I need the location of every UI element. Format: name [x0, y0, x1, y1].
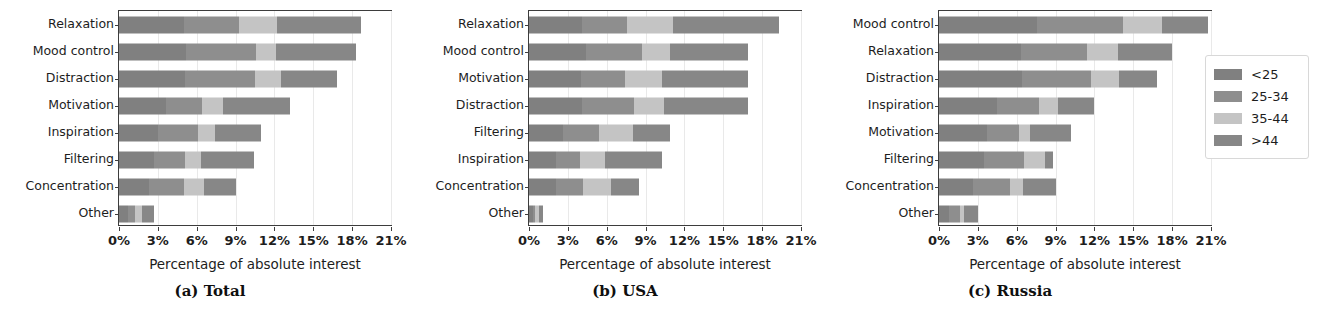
bar-segment-25	[529, 178, 556, 195]
gridline	[1172, 11, 1173, 225]
bar-segment-35-44	[255, 70, 281, 87]
bar-segment-44	[276, 43, 356, 60]
bar-segment-35-44	[634, 97, 664, 114]
legend-item[interactable]: >44	[1214, 129, 1300, 151]
bar-segment-25-34	[987, 124, 1019, 141]
x-tick-label: 15%	[298, 234, 329, 247]
stacked-bar	[529, 151, 662, 168]
y-tick-label: Concentration	[846, 179, 934, 192]
bar-segment-25	[529, 16, 582, 33]
bar-segment-25-34	[997, 97, 1038, 114]
bar-segment-25	[119, 70, 185, 87]
x-tick-mark	[723, 227, 724, 231]
bar-segment-35-44	[1019, 124, 1029, 141]
y-tick-label: Relaxation	[48, 17, 114, 30]
stacked-bar	[119, 70, 337, 87]
x-tick-label: 6%	[1006, 234, 1028, 247]
x-tick-mark	[568, 227, 569, 231]
stacked-bar	[529, 70, 748, 87]
bar-segment-44	[611, 178, 639, 195]
bar-segment-44	[633, 124, 671, 141]
bar-segment-25	[939, 151, 984, 168]
legend: <2525-3435-44>44	[1205, 55, 1309, 159]
bar-segment-25	[119, 178, 149, 195]
bar-segment-25	[939, 70, 1022, 87]
x-tick-mark	[119, 227, 120, 231]
bar-segment-35-44	[1087, 43, 1118, 60]
x-tick-label: 0%	[928, 234, 950, 247]
bar-segment-35-44	[184, 178, 205, 195]
x-tick-label: 3%	[147, 234, 169, 247]
y-tick-label: Filtering	[884, 152, 934, 165]
bar-segment-25-34	[185, 70, 255, 87]
bar-segment-25	[529, 97, 582, 114]
bar-segment-25	[119, 205, 128, 222]
x-axis-title-russia: Percentage of absolute interest	[939, 256, 1211, 272]
legend-item[interactable]: <25	[1214, 63, 1300, 85]
x-tick-label: 12%	[669, 234, 700, 247]
x-tick-label: 0%	[108, 234, 130, 247]
x-tick-label: 21%	[375, 234, 406, 247]
x-tick-labels-total: 0%3%6%9%12%15%18%21%	[119, 234, 391, 252]
legend-label: 35-44	[1251, 112, 1289, 125]
x-tick-label: 12%	[259, 234, 290, 247]
caption-russia: (c) Russia	[830, 282, 1190, 300]
bar-segment-35-44	[580, 151, 606, 168]
bar-segment-25	[119, 16, 184, 33]
bar-segment-44	[1118, 43, 1172, 60]
gridline	[391, 11, 392, 225]
x-tick-mark	[352, 227, 353, 231]
bar-segment-25-34	[1022, 70, 1091, 87]
x-tick-mark	[529, 227, 530, 231]
x-tick-label: 3%	[557, 234, 579, 247]
bar-segment-44	[964, 205, 978, 222]
stacked-bar	[119, 16, 361, 33]
y-tick-label: Relaxation	[458, 17, 524, 30]
x-tick-label: 9%	[225, 234, 247, 247]
y-tick-label: Mood control	[853, 17, 934, 30]
legend-item[interactable]: 35-44	[1214, 107, 1300, 129]
bar-segment-25-34	[949, 205, 959, 222]
bar-segment-25	[939, 124, 987, 141]
y-tick-label: Concentration	[26, 179, 114, 192]
bar-segment-35-44	[1024, 151, 1045, 168]
x-tick-mark	[274, 227, 275, 231]
bar-segment-25-34	[581, 70, 625, 87]
bar-segment-25	[119, 97, 166, 114]
y-tick-label: Concentration	[436, 179, 524, 192]
legend-item[interactable]: 25-34	[1214, 85, 1300, 107]
x-tick-mark	[1211, 227, 1212, 231]
bar-segment-25	[939, 43, 1021, 60]
bar-segment-44	[664, 97, 748, 114]
x-tick-mark	[1094, 227, 1095, 231]
gridline	[762, 11, 763, 225]
bar-segment-25	[529, 43, 586, 60]
bar-segment-25-34	[184, 16, 240, 33]
legend-swatch-icon	[1214, 135, 1242, 146]
x-tick-mark	[939, 227, 940, 231]
stacked-bar	[939, 43, 1172, 60]
stacked-bar	[529, 124, 670, 141]
y-tick-label: Filtering	[64, 152, 114, 165]
bar-segment-25-34	[586, 43, 642, 60]
bar-segment-25-34	[563, 124, 599, 141]
bar-segment-25-34	[556, 178, 583, 195]
x-tick-mark	[158, 227, 159, 231]
x-tick-labels-usa: 0%3%6%9%12%15%18%21%	[529, 234, 801, 252]
stacked-bar	[529, 205, 543, 222]
y-tick-label: Mood control	[33, 44, 114, 57]
x-tick-mark	[684, 227, 685, 231]
bar-segment-25-34	[186, 43, 256, 60]
bar-segment-44	[1162, 16, 1209, 33]
bar-segment-44	[204, 178, 235, 195]
x-tick-label: 3%	[967, 234, 989, 247]
y-axis-labels-russia: Mood controlRelaxationDistractionInspira…	[832, 10, 938, 226]
bar-segment-25	[939, 205, 949, 222]
bar-segment-35-44	[1123, 16, 1162, 33]
bar-segment-44	[662, 70, 747, 87]
y-tick-label: Mood control	[443, 44, 524, 57]
bar-segment-44	[201, 151, 254, 168]
bar-segment-35-44	[198, 124, 215, 141]
bar-segment-25-34	[1037, 16, 1122, 33]
bar-segment-35-44	[185, 151, 201, 168]
